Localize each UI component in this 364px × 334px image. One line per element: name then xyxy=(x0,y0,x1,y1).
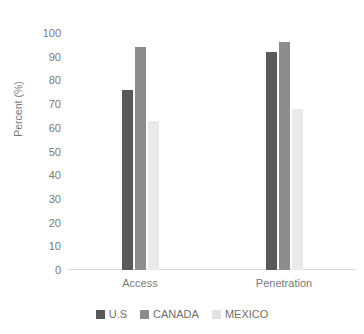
y-axis-title: Percent (%) xyxy=(12,61,24,157)
bar-group-penetration: Penetration xyxy=(212,33,356,270)
bar-u-s-access[interactable] xyxy=(122,90,133,270)
y-axis-tick-label: 60 xyxy=(49,122,61,134)
bar-group-access: Access xyxy=(68,33,212,270)
y-axis-tick-label: 90 xyxy=(49,51,61,63)
y-axis-tick-label: 0 xyxy=(55,264,61,276)
y-axis-tick-label: 30 xyxy=(49,193,61,205)
legend-item-mexico[interactable]: MEXICO xyxy=(212,308,268,320)
y-axis-tick-label: 40 xyxy=(49,169,61,181)
y-axis-tick-label: 70 xyxy=(49,98,61,110)
legend-label: CANADA xyxy=(153,308,199,320)
plot-area: 1009080706050403020100 AccessPenetration xyxy=(68,33,356,270)
bar-canada-access[interactable] xyxy=(135,47,146,270)
legend-label: MEXICO xyxy=(225,308,268,320)
legend-item-u-s[interactable]: U.S xyxy=(96,308,127,320)
legend-item-canada[interactable]: CANADA xyxy=(140,308,199,320)
bar-mexico-access[interactable] xyxy=(148,121,159,270)
y-axis-tick-label: 20 xyxy=(49,217,61,229)
legend-swatch-icon xyxy=(212,310,221,319)
legend-swatch-icon xyxy=(140,310,149,319)
y-axis-tick-label: 100 xyxy=(43,27,61,39)
chart-legend: U.SCANADAMEXICO xyxy=(0,308,364,320)
y-axis-tick-label: 80 xyxy=(49,74,61,86)
x-axis-tick-label: Penetration xyxy=(212,277,356,289)
x-axis-tick-label: Access xyxy=(68,277,212,289)
legend-label: U.S xyxy=(109,308,127,320)
bar-canada-penetration[interactable] xyxy=(279,42,290,270)
y-axis-tick-label: 10 xyxy=(49,240,61,252)
bar-u-s-penetration[interactable] xyxy=(266,52,277,270)
y-axis-tick-label: 50 xyxy=(49,146,61,158)
legend-swatch-icon xyxy=(96,310,105,319)
bar-mexico-penetration[interactable] xyxy=(292,109,303,270)
chart-title: Penetration xyxy=(0,0,364,3)
